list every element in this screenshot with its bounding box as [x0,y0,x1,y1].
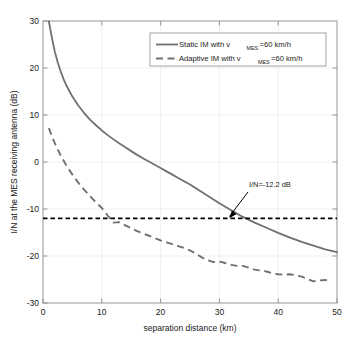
ytick-label-neg10: -10 [27,204,40,214]
chart-figure: 30 20 10 0 -10 -20 -30 0 10 20 30 40 50 … [0,0,353,343]
xtick-label-40: 40 [273,307,283,317]
y-axis-title: I/N at the MES receiving antenna (dB) [9,90,19,233]
ytick-label-0: 0 [34,157,39,167]
legend-label-adaptive-im: Adaptive IM with v [179,54,241,63]
chart-svg: 30 20 10 0 -10 -20 -30 0 10 20 30 40 50 … [0,0,353,343]
xtick-label-30: 30 [215,307,225,317]
legend-label-static-im: Static IM with v [179,40,230,49]
ytick-label-neg20: -20 [27,251,40,261]
legend-label-adaptive-im-subscript: MES [258,59,270,65]
xtick-label-10: 10 [97,307,107,317]
ytick-label-20: 20 [30,63,40,73]
xtick-label-20: 20 [156,307,166,317]
ytick-label-10: 10 [30,110,40,120]
legend-label-static-im-subscript: MES [247,45,259,51]
legend-label-adaptive-im-tail: =60 km/h [271,54,302,63]
x-axis-title: separation distance (km) [143,323,236,333]
legend[interactable]: Static IM with v MES =60 km/h Adaptive I… [150,33,326,66]
annotation-label: I/N=-12.2 dB [249,180,291,189]
xtick-label-0: 0 [41,307,46,317]
ytick-label-30: 30 [30,16,40,26]
legend-label-static-im-tail: =60 km/h [260,40,291,49]
xtick-label-50: 50 [332,307,342,317]
ytick-label-neg30: -30 [27,298,40,308]
